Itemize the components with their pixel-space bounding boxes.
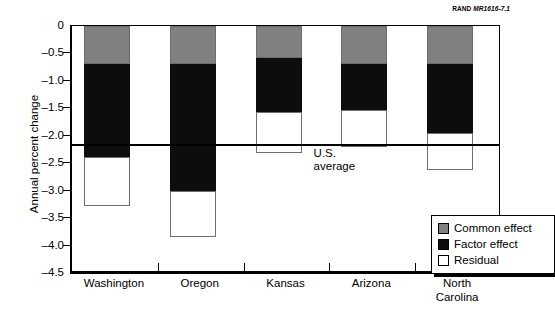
y-axis-tick-mark — [63, 162, 71, 163]
x-axis-category-label: Arizona — [328, 277, 414, 291]
bar-segment-residual[interactable] — [341, 110, 387, 147]
y-axis-tick-mark — [63, 135, 71, 136]
y-axis-tick-label: –1.5 — [20, 101, 64, 113]
legend-item-factor-effect: Factor effect — [438, 236, 548, 252]
x-axis-category-label-line: Arizona — [328, 277, 414, 291]
y-axis-tick-mark — [63, 80, 71, 81]
bar-segment-residual[interactable] — [256, 112, 302, 153]
y-axis-tick-mark — [63, 107, 71, 108]
x-axis-category-label: Washington — [71, 277, 157, 291]
bar-segment-common-effect[interactable] — [341, 26, 387, 64]
y-axis-tick-mark — [63, 190, 71, 191]
legend-label-residual: Residual — [454, 254, 499, 266]
legend-swatch-residual — [438, 255, 449, 266]
figure-credit-publisher: RAND — [452, 5, 471, 12]
y-axis-tick-label: –3.5 — [20, 211, 64, 223]
y-axis-tick-label: –3.0 — [20, 184, 64, 196]
bar-segment-residual[interactable] — [170, 191, 216, 238]
legend-item-residual: Residual — [438, 252, 548, 268]
us-average-reference-line — [72, 144, 499, 146]
figure-credit-number: MR1616-7.1 — [473, 5, 510, 12]
bar-segment-factor-effect[interactable] — [170, 64, 216, 190]
legend-label-common-effect: Common effect — [454, 222, 532, 234]
y-axis-tick-label: –4.5 — [20, 266, 64, 278]
us-average-label: U.S.average — [314, 147, 356, 173]
legend-label-factor-effect: Factor effect — [454, 238, 518, 250]
bar-segment-factor-effect[interactable] — [256, 58, 302, 112]
x-axis-category-label-line: Oregon — [157, 277, 243, 291]
y-axis-tick-mark — [63, 52, 71, 53]
y-axis-tick-label: –1.0 — [20, 74, 64, 86]
bar-segment-common-effect[interactable] — [256, 26, 302, 58]
bar-segment-common-effect[interactable] — [84, 26, 130, 64]
x-axis-category-label: Kansas — [243, 277, 329, 291]
x-axis-category-label: NorthCarolina — [414, 277, 500, 304]
chart-legend: Common effect Factor effect Residual — [431, 215, 555, 274]
legend-swatch-factor-effect — [438, 239, 449, 250]
y-axis-tick-label: –2.5 — [20, 156, 64, 168]
x-axis-separator-tick — [415, 263, 416, 272]
legend-swatch-common-effect — [438, 223, 449, 234]
y-axis-tick-label: –2.0 — [20, 129, 64, 141]
bar-segment-factor-effect[interactable] — [341, 64, 387, 110]
x-axis-separator-tick — [244, 263, 245, 272]
bar-group[interactable] — [72, 26, 158, 271]
bar-segment-residual[interactable] — [427, 133, 473, 170]
y-axis-tick-label: –4.0 — [20, 239, 64, 251]
bar-segment-common-effect[interactable] — [427, 26, 473, 64]
bar-segment-factor-effect[interactable] — [84, 64, 130, 156]
bar-segment-common-effect[interactable] — [170, 26, 216, 64]
x-axis-category-label-line: North — [414, 277, 500, 291]
y-axis-tick-mark — [63, 217, 71, 218]
legend-item-common-effect: Common effect — [438, 220, 548, 236]
y-axis-tick-label: –0.5 — [20, 46, 64, 58]
y-axis-tick-mark — [63, 245, 71, 246]
plot-area: U.S.average Common effect Factor effect … — [71, 25, 500, 272]
x-axis-category-label-line: Carolina — [414, 291, 500, 305]
x-axis-category-label: Oregon — [157, 277, 243, 291]
us-average-label-line-2: average — [314, 160, 356, 173]
x-axis-category-label-line: Washington — [71, 277, 157, 291]
figure-credit: RAND MR1616-7.1 — [452, 5, 510, 12]
bar-group[interactable] — [158, 26, 244, 271]
x-axis-separator-tick — [329, 263, 330, 272]
x-axis-category-label-line: Kansas — [243, 277, 329, 291]
us-average-label-line-1: U.S. — [314, 147, 356, 160]
x-axis-separator-tick — [158, 263, 159, 272]
bar-segment-factor-effect[interactable] — [427, 64, 473, 133]
y-axis-tick-label: 0 — [20, 19, 64, 31]
bar-segment-residual[interactable] — [84, 157, 130, 206]
